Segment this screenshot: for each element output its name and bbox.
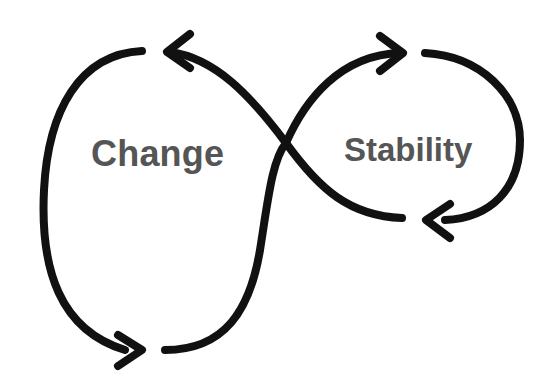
- change-label: Change: [91, 136, 224, 172]
- stability-label: Stability: [344, 133, 472, 166]
- left-loop-outer-arc: [44, 51, 142, 350]
- infinity-diagram: Change Stability: [0, 0, 557, 388]
- left-loop-inner-stroke: [165, 143, 286, 350]
- figure-eight-loop: [0, 0, 557, 388]
